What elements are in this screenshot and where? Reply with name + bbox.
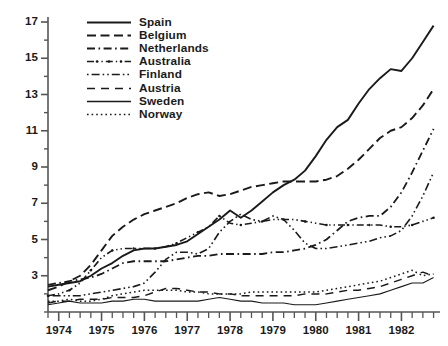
x-axis-label-1978: 1978 <box>212 324 248 336</box>
series-marker-australia <box>432 217 435 220</box>
series-marker-australia <box>132 247 135 250</box>
legend-item-finland: Finland <box>86 68 209 81</box>
series-marker-australia <box>68 289 71 292</box>
legend-swatch-spain <box>86 16 132 29</box>
series-line-sweden <box>48 278 434 305</box>
series-marker-australia <box>368 224 371 227</box>
y-axis-label-13: 13 <box>6 88 38 100</box>
legend-swatch-austria <box>86 82 132 95</box>
legend-item-australia: Australia <box>86 55 209 68</box>
series-marker-australia <box>218 215 221 218</box>
legend-label-australia: Australia <box>139 55 191 68</box>
legend-item-spain: Spain <box>86 16 209 29</box>
x-axis-label-1975: 1975 <box>84 324 120 336</box>
legend-swatch-sweden <box>86 95 132 108</box>
legend-marker <box>108 61 111 64</box>
y-axis-label-5: 5 <box>6 233 38 245</box>
series-line-netherlands <box>48 129 434 285</box>
series-marker-australia <box>175 242 178 245</box>
series-marker-australia <box>154 247 157 250</box>
series-marker-australia <box>240 224 243 227</box>
legend-label-netherlands: Netherlands <box>139 42 209 55</box>
legend-item-netherlands: Netherlands <box>86 42 209 55</box>
legend-marker <box>96 61 99 64</box>
chart-root: Spain Belgium Netherlands Australia Finl… <box>0 0 448 346</box>
x-axis-label-1982: 1982 <box>383 324 419 336</box>
y-axis-label-15: 15 <box>6 51 38 63</box>
chart-legend: Spain Belgium Netherlands Australia Finl… <box>86 16 209 121</box>
x-axis-label-1974: 1974 <box>41 324 77 336</box>
series-marker-australia <box>411 224 414 227</box>
legend-label-norway: Norway <box>139 108 183 121</box>
x-axis-label-1979: 1979 <box>255 324 291 336</box>
series-line-australia <box>48 216 434 296</box>
series-marker-australia <box>90 269 93 272</box>
x-axis-label-1977: 1977 <box>169 324 205 336</box>
y-axis-label-9: 9 <box>6 160 38 172</box>
legend-label-sweden: Sweden <box>139 95 184 108</box>
legend-swatch-belgium <box>86 29 132 42</box>
line-chart-canvas <box>0 0 448 346</box>
y-axis-label-11: 11 <box>6 124 38 136</box>
series-marker-australia <box>111 249 114 252</box>
series-line-norway <box>48 270 434 301</box>
legend-item-austria: Austria <box>86 81 209 94</box>
series-marker-australia <box>325 224 328 227</box>
series-marker-australia <box>347 224 350 227</box>
series-line-austria <box>48 272 434 303</box>
legend-label-belgium: Belgium <box>139 29 187 42</box>
y-axis-label-7: 7 <box>6 196 38 208</box>
x-axis-label-1976: 1976 <box>126 324 162 336</box>
legend-marker <box>120 61 123 64</box>
x-axis-label-1981: 1981 <box>341 324 377 336</box>
x-axis-label-1980: 1980 <box>298 324 334 336</box>
legend-swatch-finland <box>86 68 132 81</box>
legend-item-norway: Norway <box>86 108 209 121</box>
series-line-finland <box>48 172 434 295</box>
legend-item-belgium: Belgium <box>86 29 209 42</box>
series-marker-australia <box>389 226 392 229</box>
series-marker-australia <box>197 231 200 234</box>
series-marker-australia <box>304 220 307 223</box>
legend-label-spain: Spain <box>139 16 172 29</box>
legend-label-austria: Austria <box>139 82 181 95</box>
y-axis-label-17: 17 <box>6 15 38 27</box>
legend-swatch-norway <box>86 108 132 121</box>
legend-label-finland: Finland <box>139 68 182 81</box>
legend-swatch-australia <box>86 55 132 68</box>
y-axis-label-3: 3 <box>6 269 38 281</box>
legend-item-sweden: Sweden <box>86 95 209 108</box>
legend-swatch-netherlands <box>86 42 132 55</box>
